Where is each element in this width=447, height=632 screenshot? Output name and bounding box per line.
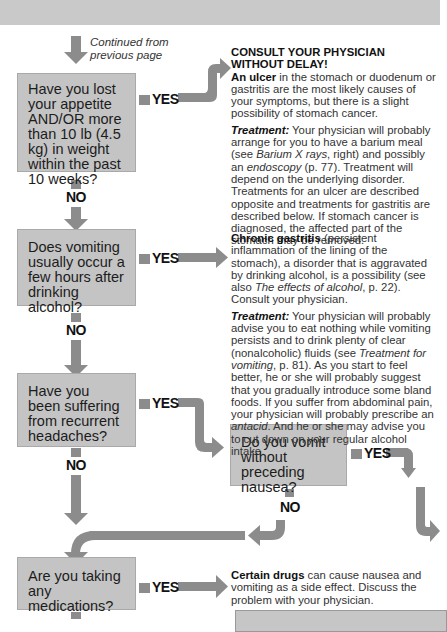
no-label: NO: [280, 500, 300, 514]
question-box-headaches: Have you been suffering from recurrent h…: [17, 373, 136, 447]
question-text: Have you been suffering from recurrent h…: [28, 383, 120, 444]
yes-label: YES: [139, 251, 179, 265]
link-endoscopy: endoscopy: [247, 161, 302, 173]
answer-ulcer: CONSULT YOUR PHYSICIAN WITHOUT DELAY! An…: [231, 46, 436, 251]
next-section-box: [235, 610, 447, 632]
question-text: Are you taking any medications?: [28, 568, 121, 614]
question-box-appetite: Have you lost your appetite AND/OR more …: [17, 73, 136, 172]
link-antacid: antacid: [231, 420, 267, 432]
link-barium-x-rays: Barium X rays: [256, 148, 327, 160]
question-box-alcohol: Does vomiting usually occur a few hours …: [17, 229, 136, 306]
question-text: Have you lost your appetite AND/OR more …: [28, 81, 121, 187]
answer-title: CONSULT YOUR PHYSICIAN WITHOUT DELAY!: [231, 46, 436, 71]
answer-chronic-gastritis: Chronic gastritis (persistent inflammati…: [231, 232, 436, 461]
link-effects-of-alcohol: The effects of alcohol: [255, 281, 362, 293]
yes-label: YES: [139, 92, 179, 106]
yes-label: YES: [139, 396, 179, 410]
yes-label: YES: [139, 580, 179, 594]
no-label: NO: [66, 323, 86, 337]
question-text: Does vomiting usually occur a few hours …: [28, 239, 125, 315]
question-box-medications: Are you taking any medications?: [17, 557, 136, 610]
no-label: NO: [66, 190, 86, 204]
continued-note: Continued from previous page: [90, 36, 210, 62]
no-label: NO: [66, 458, 86, 472]
answer-certain-drugs: Certain drugs can cause nausea and vomit…: [231, 569, 436, 610]
